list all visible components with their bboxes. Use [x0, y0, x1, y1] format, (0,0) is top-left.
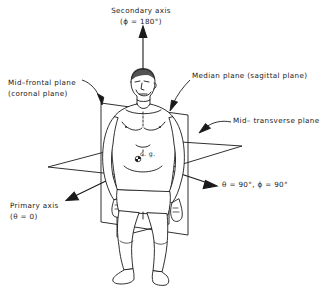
lateral-axis-label-line1: θ = 90°, ϕ = 90° — [222, 180, 288, 191]
median-plane-label-line1: Median plane (sagittal plane) — [192, 71, 307, 82]
primary-axis-label-line1: Primary axis — [10, 201, 59, 212]
mid-transverse-plane-label-line1: Mid– transverse plane — [233, 116, 320, 127]
lateral-axis-label: θ = 90°, ϕ = 90° — [222, 180, 288, 191]
center-of-gravity-marker — [135, 156, 141, 162]
median-plane-label: Median plane (sagittal plane) — [192, 71, 307, 82]
mid-frontal-plane-label-line2: (coronal plane) — [8, 89, 76, 100]
primary-axis-label-line2: (θ = 0) — [10, 212, 59, 223]
secondary-axis-label-line2: (ϕ = 180°) — [86, 17, 196, 28]
anatomical-planes-figure: Secondary axis (ϕ = 180°) Mid–frontal pl… — [0, 0, 325, 288]
mid-transverse-plane-label: Mid– transverse plane — [233, 116, 320, 127]
secondary-axis-label: Secondary axis (ϕ = 180°) — [86, 6, 196, 27]
figure-drawing — [0, 0, 325, 288]
secondary-axis-label-line1: Secondary axis — [86, 6, 196, 17]
primary-axis-label: Primary axis (θ = 0) — [10, 201, 59, 222]
mid-frontal-plane-label-line1: Mid–frontal plane — [8, 78, 76, 89]
center-of-gravity-label: c. g. — [140, 150, 156, 157]
mid-frontal-plane-label: Mid–frontal plane (coronal plane) — [8, 78, 76, 99]
mid-transverse-plane-leader — [199, 121, 231, 133]
median-plane-leader — [170, 80, 190, 111]
mid-frontal-plane-leader — [82, 80, 104, 105]
